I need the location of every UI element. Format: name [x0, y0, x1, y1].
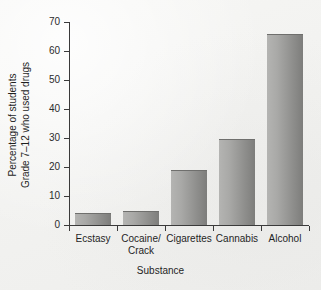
y-axis-tick: 50 [64, 80, 69, 81]
bar [75, 213, 111, 225]
x-axis-tick [213, 226, 214, 231]
x-axis-category-label: Cigarettes [165, 233, 213, 245]
x-axis-tick [117, 226, 118, 231]
x-axis-tick [309, 226, 310, 231]
y-axis-tick: 60 [64, 51, 69, 52]
bar [267, 34, 303, 225]
y-axis-tick: 30 [64, 138, 69, 139]
y-axis-tick-label: 40 [49, 103, 60, 114]
x-axis-category-label: Cocaine/ Crack [117, 233, 165, 257]
bar [123, 211, 159, 226]
bar-chart: 010203040506070 EcstasyCocaine/ CrackCig… [0, 0, 321, 290]
y-axis-tick-label: 0 [54, 219, 60, 230]
y-axis-line [69, 22, 70, 226]
y-axis-tick: 40 [64, 109, 69, 110]
y-axis-tick: 20 [64, 167, 69, 168]
y-axis-title: Percentage of students Grade 7–12 who us… [6, 40, 32, 210]
y-axis-tick: 10 [64, 196, 69, 197]
x-axis-tick [261, 226, 262, 231]
y-axis-tick-label: 70 [49, 16, 60, 27]
x-axis-tick [69, 226, 70, 231]
x-axis-category-label: Ecstasy [69, 233, 117, 245]
x-axis-category-label: Alcohol [261, 233, 309, 245]
x-axis-title: Substance [0, 265, 321, 276]
y-axis-tick-label: 10 [49, 190, 60, 201]
x-axis-tick [165, 226, 166, 231]
x-axis-category-label: Cannabis [213, 233, 261, 245]
y-axis-tick-label: 30 [49, 132, 60, 143]
x-axis-line [69, 225, 309, 226]
y-axis-tick-label: 60 [49, 45, 60, 56]
y-axis-tick-label: 50 [49, 74, 60, 85]
bar [171, 170, 207, 225]
bar [219, 139, 255, 225]
y-axis-tick-label: 20 [49, 161, 60, 172]
y-axis-tick: 70 [64, 22, 69, 23]
